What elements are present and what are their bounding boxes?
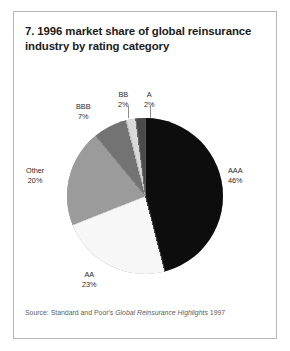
pie-disc bbox=[67, 118, 223, 274]
slice-label-aa: AA 23% bbox=[82, 270, 97, 290]
slice-label-aa-value: 23% bbox=[82, 280, 97, 290]
slice-label-aa-name: AA bbox=[84, 270, 94, 279]
slice-label-bb: BB 2% bbox=[118, 90, 129, 110]
slice-label-other-value: 20% bbox=[26, 176, 44, 186]
slice-divider bbox=[73, 196, 146, 226]
figure-panel: 7. 1996 market share of global reinsuran… bbox=[13, 11, 277, 339]
source-note: Source: Standard and Poor's Global Reins… bbox=[25, 309, 271, 316]
slice-label-other: Other 20% bbox=[26, 166, 44, 186]
slice-label-bbb-name: BBB bbox=[76, 102, 91, 111]
slice-label-other-name: Other bbox=[26, 166, 44, 175]
slice-divider bbox=[145, 118, 146, 196]
slice-label-bb-value: 2% bbox=[118, 100, 129, 110]
slice-label-aaa: AAA 46% bbox=[228, 166, 243, 186]
slice-label-aaa-value: 46% bbox=[228, 176, 243, 186]
slice-label-aaa-name: AAA bbox=[228, 166, 243, 175]
slice-label-a-name: A bbox=[147, 90, 152, 99]
pie-chart: BBB 7% BB 2% A 2% Other 20% AAA 46% AA 2… bbox=[14, 74, 276, 304]
source-suffix: 1997 bbox=[208, 309, 225, 316]
slice-divider bbox=[145, 196, 165, 272]
slice-label-a: A 2% bbox=[144, 90, 155, 110]
slice-label-a-value: 2% bbox=[144, 100, 155, 110]
figure-title: 7. 1996 market share of global reinsuran… bbox=[25, 24, 263, 55]
slice-label-bb-name: BB bbox=[118, 90, 128, 99]
pie-slices bbox=[67, 118, 223, 274]
slice-label-bbb-value: 7% bbox=[76, 112, 91, 122]
slice-label-bbb: BBB 7% bbox=[76, 102, 91, 122]
pie-graphic bbox=[67, 118, 223, 274]
source-prefix: Source: Standard and Poor's bbox=[25, 309, 115, 316]
source-publication: Global Reinsurance Highlights bbox=[115, 309, 208, 316]
